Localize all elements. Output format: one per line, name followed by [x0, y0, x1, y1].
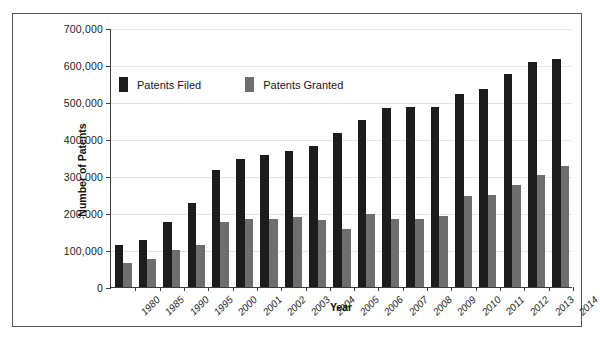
bar-patents-granted	[293, 217, 302, 287]
y-tick-label: 700,000	[64, 23, 103, 35]
bar-patents-granted	[123, 263, 132, 287]
bar-patents-granted	[172, 250, 181, 287]
bar-group	[309, 29, 326, 287]
bar-patents-filed	[406, 107, 415, 287]
bar-patents-granted	[342, 229, 351, 287]
x-tick-mark	[184, 287, 185, 291]
bar-patents-granted	[391, 219, 400, 287]
bar-patents-filed	[431, 107, 440, 287]
y-tick-label: 500,000	[64, 97, 103, 109]
x-tick-mark	[549, 287, 550, 291]
bar-group	[333, 29, 350, 287]
x-tick-mark	[281, 287, 282, 291]
y-tick-label: 400,000	[64, 134, 103, 146]
bar-patents-filed	[115, 245, 124, 287]
bar-group	[382, 29, 399, 287]
x-tick-mark	[160, 287, 161, 291]
y-tick-label: 100,000	[64, 245, 103, 257]
y-tick-label: 300,000	[64, 171, 103, 183]
bar-group	[479, 29, 496, 287]
bar-group	[552, 29, 569, 287]
legend-swatch-granted	[245, 77, 254, 92]
y-tick-label: 600,000	[64, 60, 103, 72]
x-tick-mark	[451, 287, 452, 291]
x-tick-mark	[427, 287, 428, 291]
legend-swatch-filed	[119, 77, 128, 92]
bar-patents-filed	[309, 146, 318, 287]
bar-patents-granted	[220, 222, 229, 287]
bar-patents-granted	[464, 196, 473, 287]
x-tick-mark	[306, 287, 307, 291]
legend-label: Patents Granted	[263, 79, 343, 91]
bar-group	[139, 29, 156, 287]
bar-patents-filed	[212, 170, 221, 287]
x-tick-mark	[257, 287, 258, 291]
x-tick-mark	[378, 287, 379, 291]
bar-patents-granted	[269, 219, 278, 287]
bar-patents-filed	[236, 159, 245, 287]
bar-patents-granted	[318, 220, 327, 287]
chart-figure-frame: Number of Patents 0100,000200,000300,000…	[12, 13, 582, 327]
bar-patents-granted	[366, 214, 375, 287]
legend-entry: Patents Granted	[245, 77, 343, 92]
bar-patents-filed	[260, 155, 269, 287]
bar-patents-granted	[439, 216, 448, 287]
bar-patents-filed	[528, 62, 537, 287]
bar-patents-filed	[333, 133, 342, 287]
bar-group	[212, 29, 229, 287]
bar-patents-granted	[561, 166, 570, 287]
x-tick-mark	[233, 287, 234, 291]
x-tick-label: 2014	[576, 294, 600, 318]
bar-group	[188, 29, 205, 287]
plot-area: 0100,000200,000300,000400,000500,000600,…	[110, 29, 572, 288]
x-tick-mark	[354, 287, 355, 291]
x-tick-mark	[524, 287, 525, 291]
bar-group	[163, 29, 180, 287]
bar-patents-granted	[196, 245, 205, 287]
bar-patents-filed	[285, 151, 294, 287]
y-tick-label: 0	[97, 282, 103, 294]
y-tick-label: 200,000	[64, 208, 103, 220]
bar-patents-granted	[147, 259, 156, 287]
x-tick-mark	[573, 287, 574, 291]
bar-patents-filed	[552, 59, 561, 287]
bar-patents-granted	[415, 219, 424, 287]
bar-patents-filed	[382, 108, 391, 287]
bar-patents-granted	[488, 195, 497, 288]
bar-group	[455, 29, 472, 287]
bars-layer	[111, 29, 572, 287]
chart-legend: Patents FiledPatents Granted	[119, 77, 343, 92]
bar-group	[285, 29, 302, 287]
x-tick-mark	[135, 287, 136, 291]
x-axis-title: Year	[110, 301, 572, 313]
bar-group	[528, 29, 545, 287]
x-tick-mark	[476, 287, 477, 291]
x-tick-mark	[208, 287, 209, 291]
bar-patents-granted	[245, 219, 254, 287]
bar-patents-filed	[504, 74, 513, 287]
bar-patents-filed	[455, 94, 464, 287]
legend-entry: Patents Filed	[119, 77, 201, 92]
x-tick-mark	[403, 287, 404, 291]
bar-patents-filed	[358, 120, 367, 287]
bar-group	[406, 29, 423, 287]
bar-group	[358, 29, 375, 287]
y-tick-mark	[106, 288, 111, 289]
x-tick-mark	[330, 287, 331, 291]
bar-group	[115, 29, 132, 287]
bar-group	[431, 29, 448, 287]
bar-patents-filed	[479, 89, 488, 287]
bar-group	[260, 29, 277, 287]
bar-patents-granted	[512, 185, 521, 287]
bar-patents-filed	[188, 203, 197, 287]
legend-label: Patents Filed	[137, 79, 201, 91]
x-tick-mark	[500, 287, 501, 291]
bar-patents-filed	[139, 240, 148, 287]
bar-patents-filed	[163, 222, 172, 287]
bar-group	[504, 29, 521, 287]
bar-group	[236, 29, 253, 287]
bar-patents-granted	[537, 175, 546, 287]
